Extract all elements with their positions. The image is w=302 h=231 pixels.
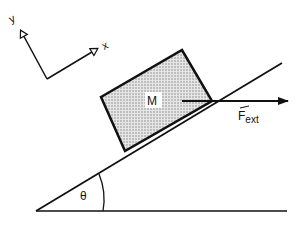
coordinate-axes: y x — [7, 12, 110, 79]
angle-label: θ — [80, 189, 87, 203]
vector-bar — [240, 106, 249, 108]
force-label-sub: ext — [245, 114, 259, 125]
block-label: M — [147, 94, 157, 108]
y-axis — [21, 31, 47, 79]
x-axis — [47, 49, 97, 79]
angle-arc — [99, 174, 104, 211]
force-label: Fext — [238, 109, 259, 125]
x-axis-label: x — [100, 38, 111, 51]
y-axis-label: y — [7, 12, 18, 25]
force-label-main: F — [238, 109, 245, 123]
inclined-plane-diagram: y x θ M Fext — [0, 0, 302, 231]
